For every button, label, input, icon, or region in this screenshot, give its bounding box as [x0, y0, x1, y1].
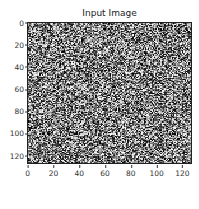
- x-tick-label: 80: [126, 169, 136, 178]
- noise-image: [28, 23, 191, 163]
- chart-title: Input Image: [27, 8, 192, 18]
- x-tick-label: 60: [100, 169, 110, 178]
- x-tick-label: 0: [25, 169, 30, 178]
- x-tick-label: 40: [74, 169, 84, 178]
- figure-caption: [45, 193, 160, 199]
- y-tick-label: 60: [14, 85, 24, 94]
- y-tick-label: 120: [10, 151, 24, 160]
- y-tick-label: 100: [10, 129, 24, 138]
- y-tick-label: 80: [14, 107, 24, 116]
- y-tick-label: 40: [14, 62, 24, 71]
- y-tick-label: 20: [14, 40, 24, 49]
- x-tick-label: 100: [149, 169, 163, 178]
- x-tick-label: 120: [175, 169, 189, 178]
- x-tick-label: 20: [49, 169, 59, 178]
- image-plot-area: [27, 22, 192, 164]
- y-tick-label: 0: [19, 18, 24, 27]
